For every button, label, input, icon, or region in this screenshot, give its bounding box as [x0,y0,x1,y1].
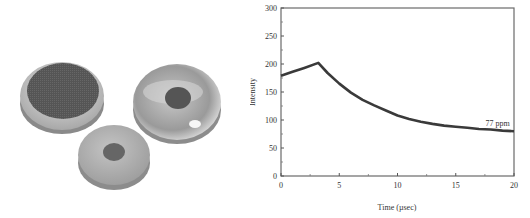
y-tick-label: 150 [265,88,277,97]
large-dark-disc [20,62,104,134]
y-axis-label: Intensity [250,78,257,106]
transparent-dome-disc [133,64,221,144]
x-tick-label: 10 [394,181,402,190]
y-tick-label: 0 [273,172,277,181]
x-tick-label: 5 [337,181,341,190]
plot-frame [281,8,514,176]
y-tick-label: 250 [265,32,277,41]
y-tick-label: 200 [265,60,277,69]
x-tick-label: 0 [279,181,283,190]
data-line [281,63,514,131]
sensor-discs-photo [0,0,265,218]
y-tick-label: 50 [269,144,277,153]
x-tick-label: 20 [510,181,518,190]
y-tick-label: 300 [265,4,277,13]
annotation-label: 77 ppm [486,119,511,128]
plot-border [281,8,514,176]
x-tick-label: 15 [452,181,460,190]
x-axis-label: Time (µsec) [378,203,417,212]
intensity-time-chart: 050100150200250300 05101520 77 ppm Time … [250,0,530,218]
y-tick-label: 100 [265,116,277,125]
small-spot-disc [78,125,150,190]
